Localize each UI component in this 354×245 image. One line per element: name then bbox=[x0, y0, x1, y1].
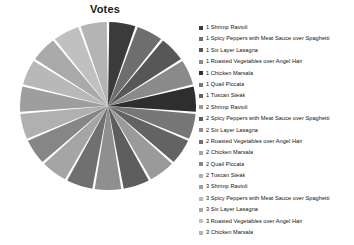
legend-item[interactable]: 1 Quail Piccata bbox=[199, 79, 354, 90]
legend-item[interactable]: 2 Tuscan Steak bbox=[199, 170, 354, 181]
legend-item[interactable]: 3 Spicy Peppers with Meat Sauce over Spa… bbox=[199, 193, 354, 204]
pie-slice-group bbox=[20, 22, 196, 190]
legend-item-label: 3 Spicy Peppers with Meat Sauce over Spa… bbox=[206, 193, 330, 204]
legend-swatch-icon bbox=[199, 197, 203, 201]
legend-swatch-icon bbox=[199, 117, 203, 121]
legend-item[interactable]: 1 Tuscan Steak bbox=[199, 90, 354, 101]
legend-swatch-icon bbox=[199, 94, 203, 98]
legend-swatch-icon bbox=[199, 26, 203, 30]
legend-item[interactable]: 1 Roasted Vegetables over Angel Hair bbox=[199, 56, 354, 67]
legend-swatch-icon bbox=[199, 140, 203, 144]
legend-item[interactable]: 3 Chicken Marsala bbox=[199, 227, 354, 238]
legend-item-label: 1 Shrimp Ravioli bbox=[206, 22, 248, 33]
legend-item[interactable]: 2 Shrimp Ravioli bbox=[199, 102, 354, 113]
legend-item-label: 2 Tuscan Steak bbox=[206, 170, 245, 181]
legend-swatch-icon bbox=[199, 162, 203, 166]
pie-plot-area bbox=[20, 22, 196, 190]
legend-item-label: 2 Chicken Marsala bbox=[206, 147, 253, 158]
pie-svg bbox=[20, 22, 196, 190]
legend-item-label: 1 Roasted Vegetables over Angel Hair bbox=[206, 56, 302, 67]
legend-item[interactable]: 1 Shrimp Ravioli bbox=[199, 22, 354, 33]
legend-swatch-icon bbox=[199, 151, 203, 155]
legend-item[interactable]: 1 Chicken Marsala bbox=[199, 68, 354, 79]
legend-swatch-icon bbox=[199, 219, 203, 223]
legend-swatch-icon bbox=[199, 208, 203, 212]
legend-item-label: 1 Chicken Marsala bbox=[206, 68, 253, 79]
legend-item-label: 1 Quail Piccata bbox=[206, 79, 244, 90]
legend-swatch-icon bbox=[199, 105, 203, 109]
legend-swatch-icon bbox=[199, 71, 203, 75]
legend-swatch-icon bbox=[199, 37, 203, 41]
legend-item[interactable]: 1 Spicy Peppers with Meat Sauce over Spa… bbox=[199, 33, 354, 44]
legend-item-label: 3 Six Layer Lasagna bbox=[206, 204, 258, 215]
legend-item-label: 1 Tuscan Steak bbox=[206, 90, 245, 101]
legend-item[interactable]: 3 Shrimp Ravioli bbox=[199, 181, 354, 192]
legend-swatch-icon bbox=[199, 83, 203, 87]
legend-swatch-icon bbox=[199, 185, 203, 189]
legend-item-label: 1 Spicy Peppers with Meat Sauce over Spa… bbox=[206, 33, 330, 44]
legend-item-label: 2 Shrimp Ravioli bbox=[206, 102, 248, 113]
chart-legend: 1 Shrimp Ravioli1 Spicy Peppers with Mea… bbox=[199, 22, 354, 244]
legend-swatch-icon bbox=[199, 174, 203, 178]
legend-item-label: 2 Quail Piccata bbox=[206, 159, 244, 170]
legend-item[interactable]: 2 Quail Piccata bbox=[199, 159, 354, 170]
legend-item-label: 2 Roasted Vegetables over Angel Hair bbox=[206, 136, 302, 147]
legend-item[interactable]: 2 Chicken Marsala bbox=[199, 147, 354, 158]
legend-item-label: 3 Roasted Vegetables over Angel Hair bbox=[206, 216, 302, 227]
legend-item-label: 2 Six Layer Lasagna bbox=[206, 125, 258, 136]
legend-item[interactable]: 2 Spicy Peppers with Meat Sauce over Spa… bbox=[199, 113, 354, 124]
legend-swatch-icon bbox=[199, 231, 203, 235]
legend-item[interactable]: 3 Roasted Vegetables over Angel Hair bbox=[199, 216, 354, 227]
legend-item[interactable]: 2 Six Layer Lasagna bbox=[199, 125, 354, 136]
legend-swatch-icon bbox=[199, 60, 203, 64]
pie-chart-figure: Votes 1 Shrimp Ravioli1 Spicy Peppers wi… bbox=[0, 0, 354, 245]
legend-item-label: 2 Spicy Peppers with Meat Sauce over Spa… bbox=[206, 113, 330, 124]
legend-item[interactable]: 2 Roasted Vegetables over Angel Hair bbox=[199, 136, 354, 147]
chart-title: Votes bbox=[0, 3, 210, 15]
legend-item[interactable]: 3 Six Layer Lasagna bbox=[199, 204, 354, 215]
legend-item[interactable]: 1 Six Layer Lasagna bbox=[199, 45, 354, 56]
legend-item-label: 1 Six Layer Lasagna bbox=[206, 45, 258, 56]
legend-item-label: 3 Shrimp Ravioli bbox=[206, 181, 248, 192]
legend-swatch-icon bbox=[199, 48, 203, 52]
legend-item-label: 3 Chicken Marsala bbox=[206, 227, 253, 238]
legend-swatch-icon bbox=[199, 128, 203, 132]
